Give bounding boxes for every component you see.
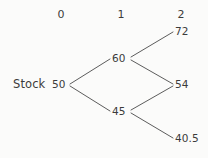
node-value-t1-down-45: 45 xyxy=(112,106,126,117)
node-value-t1-up-60: 60 xyxy=(112,53,126,64)
node-value-t2-up-up-72: 72 xyxy=(175,26,189,37)
tree-edge-45-to-40.5 xyxy=(131,113,173,138)
tree-edge-60-to-72 xyxy=(131,32,173,57)
tree-edge-50-to-60 xyxy=(70,59,110,84)
tree-edge-60-to-54 xyxy=(131,60,173,84)
period-header-0: 0 xyxy=(57,9,64,20)
period-header-1: 1 xyxy=(117,9,124,20)
binomial-tree-figure: 0 1 2 Stock 50 60 45 72 54 40.5 xyxy=(0,0,208,158)
tree-edge-50-to-45 xyxy=(70,86,110,111)
tree-edge-45-to-54 xyxy=(131,86,173,110)
row-label-stock: Stock xyxy=(13,79,45,90)
node-value-t2-down-down-40-5: 40.5 xyxy=(175,133,199,144)
node-value-t2-mid-54: 54 xyxy=(175,79,189,90)
node-value-t0-50: 50 xyxy=(52,79,66,90)
period-header-2: 2 xyxy=(177,9,184,20)
